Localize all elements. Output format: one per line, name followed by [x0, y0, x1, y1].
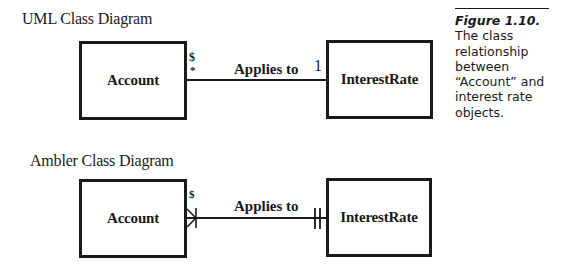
crows-foot-many-icon: [187, 208, 196, 228]
double-bar-exactly-one-icon: [315, 208, 320, 229]
